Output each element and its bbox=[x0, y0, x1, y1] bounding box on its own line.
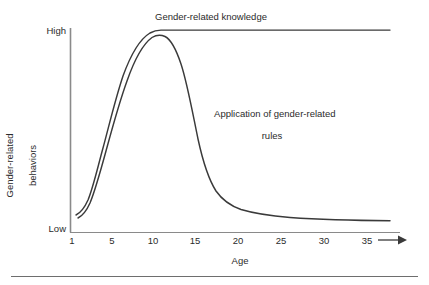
y-axis-tick-high: High bbox=[18, 25, 66, 36]
figure-bottom-divider bbox=[11, 276, 418, 277]
series-label-gender-related-knowledge: Gender-related knowledge bbox=[155, 11, 267, 22]
x-axis-tick-20: 20 bbox=[223, 235, 253, 246]
x-axis-tick-30: 30 bbox=[309, 235, 339, 246]
series-label-application-of-gender-related-rules: Application of gender-related rules bbox=[204, 97, 354, 163]
y-axis-title-line-2: behaviors bbox=[27, 145, 38, 186]
x-axis-title: Age bbox=[185, 255, 295, 266]
application-label-line-1: Application of gender-related bbox=[214, 108, 335, 119]
y-axis-title: Gender-related behaviors bbox=[0, 106, 50, 236]
x-axis-tick-35: 35 bbox=[352, 235, 382, 246]
x-axis-tick-25: 25 bbox=[266, 235, 296, 246]
x-axis-tick-5: 5 bbox=[97, 235, 127, 246]
x-axis-tick-10: 10 bbox=[138, 235, 168, 246]
x-axis-tick-1: 1 bbox=[57, 235, 87, 246]
x-axis-tick-15: 15 bbox=[180, 235, 210, 246]
x-axis-arrow-icon bbox=[378, 236, 407, 245]
application-label-line-2: rules bbox=[204, 130, 340, 141]
y-axis-title-line-1: Gender-related bbox=[4, 134, 15, 198]
chart-figure: High Low Gender-related behaviors 1 5 10… bbox=[0, 0, 429, 285]
